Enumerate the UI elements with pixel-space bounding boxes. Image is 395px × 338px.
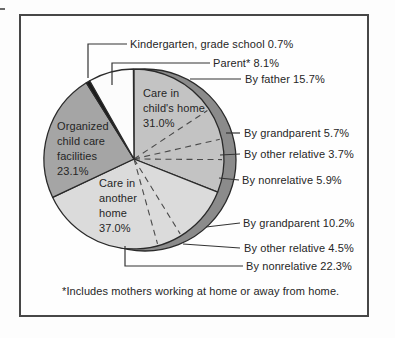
slice-label-line: facilities xyxy=(57,149,109,164)
callout-by-father: By father 15.7% xyxy=(245,73,325,86)
callout-by-grandparent-5-7: By grandparent 5.7% xyxy=(244,127,349,140)
callout-kindergarten-grade-school: Kindergarten, grade school 0.7% xyxy=(130,38,293,51)
leader-line-by-other-relative-4-5 xyxy=(183,244,240,248)
callout-by-nonrelative-22-3: By nonrelative 22.3% xyxy=(246,260,352,273)
slice-label-care-in-another-home: Care in another home 37.0% xyxy=(99,176,137,236)
scanned-figure-page: Kindergarten, grade school 0.7% Parent* … xyxy=(0,0,395,338)
slice-label-line: child's home xyxy=(143,101,205,116)
slice-label-line: Organized xyxy=(57,119,109,134)
slice-label-line: child care xyxy=(57,134,109,149)
slice-label-line: Care in xyxy=(143,86,205,101)
slice-label-organized-child-care: Organized child care facilities 23.1% xyxy=(57,119,109,179)
callout-by-grandparent-10-2: By grandparent 10.2% xyxy=(243,217,354,230)
slice-label-line: home xyxy=(99,206,137,221)
slice-label-line: another xyxy=(99,191,137,206)
slice-label-line: Care in xyxy=(99,176,137,191)
slice-label-care-in-childs-home: Care in child's home 31.0% xyxy=(143,86,205,131)
callout-by-other-relative-4-5: By other relative 4.5% xyxy=(244,242,354,255)
slice-label-line: 37.0% xyxy=(99,221,137,236)
subdivision-divider-by-other-relative xyxy=(134,159,222,160)
figure-footnote: *Includes mothers working at home or awa… xyxy=(62,285,339,297)
callout-by-other-relative-3-7: By other relative 3.7% xyxy=(244,148,354,161)
leader-line-by-grandparent-10-2 xyxy=(206,223,240,227)
callout-by-nonrelative-5-9: By nonrelative 5.9% xyxy=(242,174,342,187)
callout-parent: Parent* 8.1% xyxy=(213,57,279,70)
slice-label-line: 31.0% xyxy=(143,116,205,131)
